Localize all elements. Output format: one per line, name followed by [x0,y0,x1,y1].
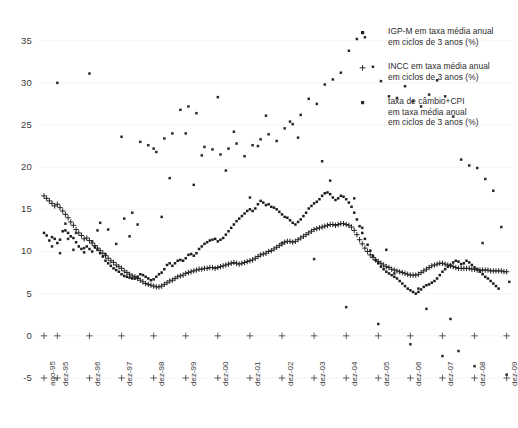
x-tick-label: ago-95 [48,361,57,386]
x-tick-label: dez-07 [446,362,455,386]
x-tick-label: dez-99 [189,362,198,386]
x-tick-label: dez-04 [350,362,359,386]
legend-marker-plus-icon [358,63,368,73]
y-tick-label: 35 [8,35,32,46]
y-tick-label: 30 [8,77,32,88]
x-tick-label: dez-97 [125,362,134,386]
x-tick-label: dez-05 [382,362,391,386]
y-tick-label: 5 [8,288,32,299]
y-tick-label: 0 [8,330,32,341]
y-tick-label: 15 [8,203,32,214]
legend-marker-square-icon [358,28,368,38]
y-tick-label: 25 [8,119,32,130]
y-tick-label: 10 [8,245,32,256]
legend-entry-cambio-cpi: taxa de câmbio+CPI em taxa média anual e… [358,96,518,128]
x-tick-label: dez-09 [510,362,518,386]
chart-container: -505101520253035 ago-95dez-95dez-96dez-9… [0,0,518,428]
x-tick-label: dez-95 [61,362,70,386]
axis-tick-markers [41,333,510,382]
y-tick-label: 20 [8,161,32,172]
y-tick-label: -5 [8,372,32,383]
x-tick-label: dez-00 [221,362,230,386]
legend-label-cambio-cpi: taxa de câmbio+CPI em taxa média anual e… [388,96,518,128]
x-tick-label: dez-01 [253,362,262,386]
legend-entry-igpm: IGP-M em taxa média anual em ciclos de 3… [358,26,518,48]
legend-entry-incc: INCC em taxa média anual em ciclos de 3 … [358,61,518,83]
legend-label-incc: INCC em taxa média anual em ciclos de 3 … [388,61,518,82]
x-tick-label: dez-08 [478,362,487,386]
data-series-0 [43,191,500,295]
legend-label-igpm: IGP-M em taxa média anual em ciclos de 3… [388,26,518,47]
x-tick-label: dez-02 [286,362,295,386]
chart-legend: IGP-M em taxa média anual em ciclos de 3… [358,26,518,141]
x-tick-label: dez-03 [318,362,327,386]
x-tick-label: dez-96 [93,362,102,386]
legend-marker-square-2-icon [358,98,368,108]
x-tick-label: dez-06 [414,362,423,386]
x-tick-label: dez-98 [157,362,166,386]
